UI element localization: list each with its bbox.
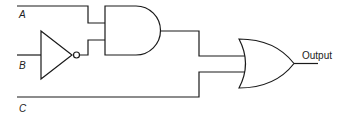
label-input-b: B: [19, 60, 26, 71]
wire-and-to-or: [160, 31, 246, 56]
label-input-a: A: [18, 9, 26, 20]
wire-input-c: [17, 72, 246, 97]
wire-input-a: [17, 6, 105, 23]
and-gate: [105, 6, 160, 55]
or-gate: [239, 39, 294, 88]
label-output: Output: [302, 50, 332, 61]
logic-circuit-diagram: A B C Output: [0, 0, 350, 119]
label-input-c: C: [19, 103, 27, 114]
wire-not-to-and: [80, 40, 105, 55]
not-gate-bubble: [74, 52, 80, 58]
not-gate: [41, 31, 72, 79]
